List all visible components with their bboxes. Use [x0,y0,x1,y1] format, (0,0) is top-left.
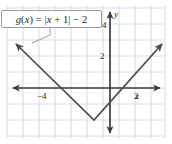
x-tick-label-neg4: −4 [37,92,47,101]
y-axis-label: y [114,10,118,19]
x-tick-label-2: 2 [134,92,139,101]
y-tick-label-4: 4 [102,21,107,30]
function-equation-text: g(x) = |x + 1| − 2 [16,14,88,25]
figure-graph-absolute-value: x y 4 2 −4 2 g(x) = |x + 1| − 2 [0,0,172,144]
function-callout-box: g(x) = |x + 1| − 2 [1,10,102,28]
y-tick-label-2: 2 [100,52,105,61]
